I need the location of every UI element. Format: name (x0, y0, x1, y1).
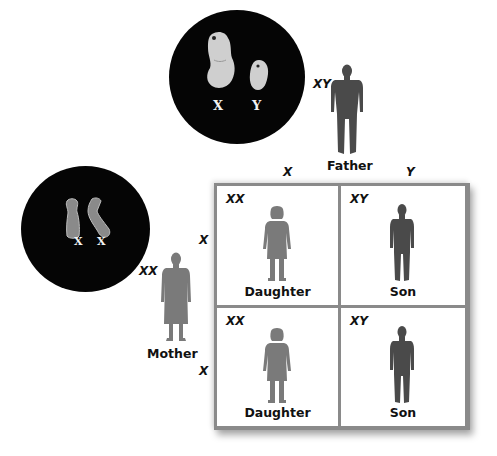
cell-label: Daughter (217, 405, 338, 420)
father-genotype: XY (313, 77, 331, 91)
father-gamete-x: X (283, 165, 292, 179)
mother-chromosome-circle: X X (21, 166, 150, 292)
father-label: Father (327, 158, 373, 173)
father-chromosome-circle: X Y (169, 10, 305, 144)
cell-label: Son (341, 405, 465, 420)
cell-genotype: XX (226, 314, 245, 328)
punnett-cell-daughter-top: XX Daughter (217, 186, 338, 305)
father-silhouette-icon (330, 64, 364, 156)
mother-gamete-x-bottom: X (199, 364, 208, 378)
cell-label: Son (341, 284, 465, 299)
daughter-silhouette-icon (262, 205, 292, 283)
mother-x-chromosome-icon (63, 198, 83, 240)
punnett-cell-daughter-bottom: XX Daughter (217, 308, 338, 426)
father-gamete-y: Y (406, 165, 415, 179)
son-silhouette-icon (389, 204, 415, 284)
daughter-silhouette-icon (262, 327, 292, 405)
mother-x-chromosome-label: X (74, 235, 83, 248)
punnett-square: XX Daughter XY Son XX (214, 183, 470, 430)
father-y-chromosome-icon (248, 59, 270, 91)
father-x-chromosome-label: X (213, 98, 223, 113)
mother-genotype: XX (139, 264, 158, 278)
father-x-chromosome-icon (202, 30, 242, 92)
cell-genotype: XX (226, 192, 245, 206)
mother-x-chromosome-label: X (97, 235, 106, 248)
punnett-cell-son-top: XY Son (341, 186, 465, 305)
cell-label: Daughter (217, 284, 338, 299)
cell-genotype: XY (350, 314, 368, 328)
father-y-chromosome-label: Y (252, 98, 261, 113)
mother-gamete-x-top: X (199, 233, 208, 247)
mother-silhouette-icon (160, 252, 192, 342)
punnett-cell-son-bottom: XY Son (341, 308, 465, 426)
mother-x-chromosome-icon (85, 197, 113, 239)
son-silhouette-icon (389, 326, 415, 406)
cell-genotype: XY (350, 192, 368, 206)
mother-label: Mother (147, 346, 198, 361)
